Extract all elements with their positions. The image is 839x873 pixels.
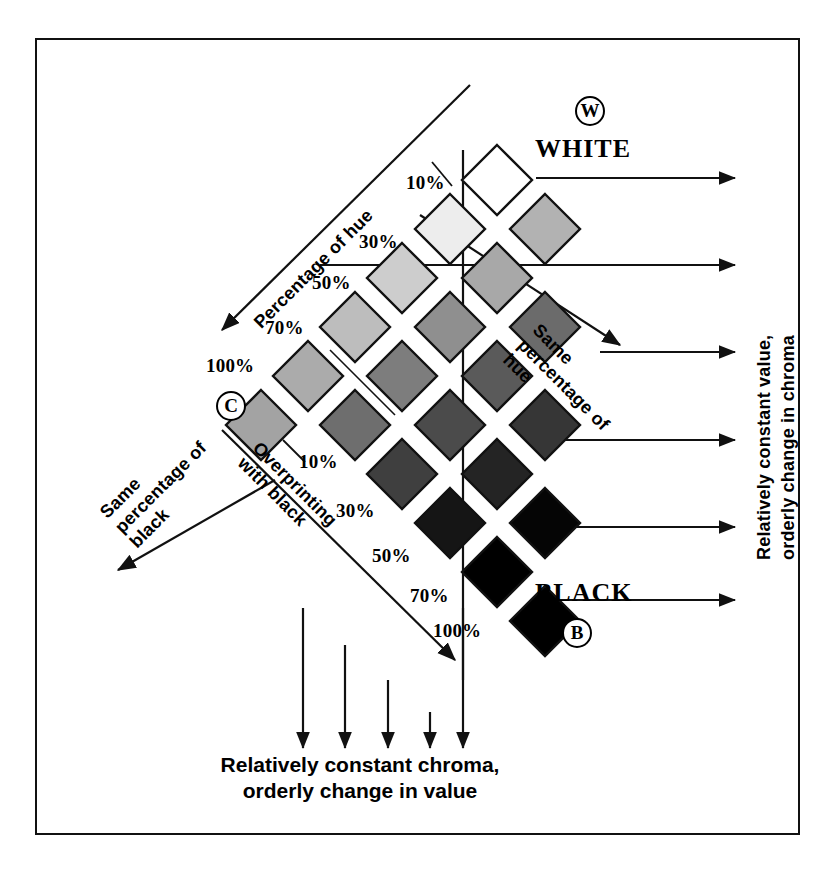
white-caption: WHITE xyxy=(535,134,631,164)
black-caption: BLACK xyxy=(535,578,632,608)
bottom-caption-line-1: Relatively constant chroma, xyxy=(150,752,570,778)
diamond-swatch xyxy=(510,488,580,558)
diagram-vector-layer xyxy=(0,0,839,873)
hue-tick-30: 30% xyxy=(359,231,398,253)
right-vertical-caption: Relatively constant value, orderly chang… xyxy=(752,335,801,560)
diamond-swatch xyxy=(462,243,532,313)
diamond-swatch xyxy=(462,537,532,607)
diamond-swatch xyxy=(462,145,532,215)
diamond-swatch xyxy=(415,390,485,460)
diamond-swatch xyxy=(367,243,437,313)
diamond-swatch-grid xyxy=(226,145,580,656)
diamond-swatch xyxy=(415,488,485,558)
black-tick-10: 10% xyxy=(299,451,338,473)
black-tick-50: 50% xyxy=(372,545,411,567)
figure-canvas: W WHITE BLACK B C 10% 30% 50% 70% 100% 1… xyxy=(0,0,839,873)
diamond-swatch xyxy=(415,292,485,362)
bottom-caption: Relatively constant chroma, orderly chan… xyxy=(150,752,570,805)
diamond-swatch xyxy=(462,439,532,509)
white-marker-circle: W xyxy=(575,96,605,126)
diamond-swatch xyxy=(415,194,485,264)
hue-tick-100: 100% xyxy=(206,355,254,377)
right-vertical-line-2: orderly change in chroma xyxy=(776,335,800,560)
diamond-swatch xyxy=(510,194,580,264)
black-tick-100: 100% xyxy=(433,620,481,642)
bottom-caption-line-2: orderly change in value xyxy=(150,778,570,804)
black-marker-circle: B xyxy=(562,618,592,648)
chroma-marker-circle: C xyxy=(216,391,246,421)
black-tick-70: 70% xyxy=(410,585,449,607)
right-vertical-line-1: Relatively constant value, xyxy=(752,335,776,560)
diamond-swatch xyxy=(367,439,437,509)
hue-tick-10: 10% xyxy=(406,172,445,194)
diamond-swatch xyxy=(367,341,437,411)
